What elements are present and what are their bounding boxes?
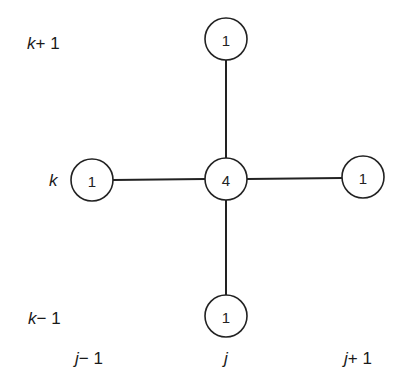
edge-left [113, 179, 205, 180]
node-right-value: 1 [359, 170, 367, 187]
col-var: j [224, 349, 228, 368]
node-left-value: 1 [88, 173, 96, 190]
node-center-value: 4 [222, 172, 230, 189]
node-bottom-value: 1 [222, 309, 230, 326]
row-var: k [28, 309, 37, 328]
row-suffix: − 1 [37, 309, 61, 328]
col-label-j: j [224, 350, 228, 367]
col-label-j-plus-1: j+ 1 [344, 350, 372, 367]
row-var: k [49, 171, 58, 190]
col-suffix: − 1 [79, 349, 103, 368]
row-var: k [27, 34, 36, 53]
stencil-diagram: 4 1 1 1 1 [0, 0, 405, 386]
row-label-k-minus-1: k− 1 [28, 310, 61, 327]
col-suffix: + 1 [348, 349, 372, 368]
row-label-k-plus-1: k+ 1 [27, 35, 60, 52]
row-suffix: + 1 [36, 34, 60, 53]
row-label-k: k [49, 172, 58, 189]
col-label-j-minus-1: j− 1 [75, 350, 103, 367]
node-top-value: 1 [222, 32, 230, 49]
edge-right [247, 178, 342, 179]
